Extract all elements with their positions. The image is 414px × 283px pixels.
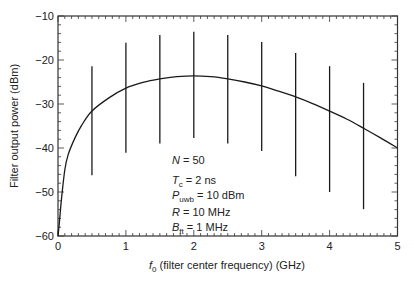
x-axis-label: f0 (filter center frequency) (GHz) bbox=[149, 259, 305, 274]
annotation-value: = 50 bbox=[180, 154, 205, 166]
y-tick-label: −40 bbox=[35, 142, 54, 154]
x-tick-label: 2 bbox=[191, 240, 197, 252]
x-tick-label: 1 bbox=[123, 240, 129, 252]
annotation-line: N = 50 bbox=[172, 154, 205, 166]
x-tick-label: 5 bbox=[394, 240, 400, 252]
y-tick-label: −50 bbox=[35, 186, 54, 198]
annotation-line: R = 10 MHz bbox=[172, 206, 230, 218]
chart-figure: −60−50−40−30−20−10 012345 Filter output … bbox=[0, 0, 414, 283]
y-tick-label: −20 bbox=[35, 54, 54, 66]
y-tick-label: −60 bbox=[35, 230, 54, 242]
annotation-symbol: R bbox=[172, 206, 180, 218]
y-tick-labels: −60−50−40−30−20−10 bbox=[35, 10, 54, 242]
annotation-symbol: B bbox=[172, 221, 179, 233]
x-tick-label: 3 bbox=[259, 240, 265, 252]
y-axis-label: Filter output power (dBm) bbox=[8, 64, 20, 188]
x-tick-label: 4 bbox=[327, 240, 333, 252]
annotation-value: = 10 dBm bbox=[194, 189, 244, 201]
annotation-value: = 1 MHz bbox=[184, 221, 228, 233]
annotation-line: Puwb = 10 dBm bbox=[172, 189, 244, 204]
annotation-subscript: uwb bbox=[179, 195, 194, 204]
annotation-value: = 10 MHz bbox=[180, 206, 230, 218]
x-tick-label: 0 bbox=[55, 240, 61, 252]
y-tick-label: −10 bbox=[35, 10, 54, 22]
x-tick-labels: 012345 bbox=[55, 240, 401, 252]
y-tick-label: −30 bbox=[35, 98, 54, 110]
annotation-value: = 2 ns bbox=[183, 174, 217, 186]
annotation-symbol: N bbox=[172, 154, 180, 166]
annotation-line: Bft = 1 MHz bbox=[172, 221, 228, 236]
parameter-annotations: N = 50Tc = 2 nsPuwb = 10 dBmR = 10 MHzBf… bbox=[172, 154, 244, 236]
annotation-line: Tc = 2 ns bbox=[172, 174, 217, 189]
error-bars bbox=[92, 32, 364, 209]
x-axis-label-text: (filter center frequency) (GHz) bbox=[156, 259, 305, 271]
